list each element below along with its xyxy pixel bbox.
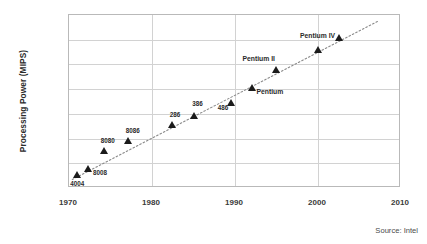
data-marker xyxy=(314,46,322,53)
data-point-label: 386 xyxy=(192,100,203,107)
data-point-label: 4004 xyxy=(70,180,84,187)
x-axis-tick-label: 1990 xyxy=(204,198,264,207)
chart-container: Processing Power (MIPS) 0.010.1110100100… xyxy=(0,0,427,244)
data-marker xyxy=(335,34,343,41)
data-marker xyxy=(124,137,132,144)
data-marker xyxy=(248,84,256,91)
x-axis-tick-label: 2010 xyxy=(370,198,427,207)
x-axis-tick-label: 1980 xyxy=(121,198,181,207)
data-point-label: Pentium xyxy=(256,88,283,95)
data-marker xyxy=(73,171,81,178)
y-axis-title: Processing Power (MIPS) xyxy=(18,21,28,181)
source-note: Source: Intel xyxy=(375,226,418,235)
data-point-label: 486 xyxy=(218,104,229,111)
data-marker xyxy=(190,112,198,119)
x-axis-tick-label: 2000 xyxy=(287,198,347,207)
plot-area: 4004800880808086286386486PentiumPentium … xyxy=(68,14,400,187)
x-axis-tick-label: 1970 xyxy=(38,198,98,207)
data-marker xyxy=(168,121,176,128)
data-marker xyxy=(84,165,92,172)
data-point-label: 8086 xyxy=(126,127,140,134)
data-point-label: 8080 xyxy=(101,137,115,144)
data-point-label: 8008 xyxy=(93,169,107,176)
data-marker xyxy=(272,66,280,73)
data-point-label: 286 xyxy=(170,111,181,118)
data-point-label: Pentium II xyxy=(243,55,275,62)
data-marker xyxy=(100,147,108,154)
data-point-label: Pentium IV xyxy=(300,32,335,39)
